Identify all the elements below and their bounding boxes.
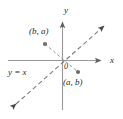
point-label-a-b: (a, b) bbox=[63, 78, 83, 87]
reflection-connector bbox=[45, 44, 78, 72]
point-marker-b-a bbox=[43, 42, 47, 46]
coordinate-plane-figure: y x 0 (b, a) (a, b) y = x bbox=[0, 0, 123, 119]
figure-canvas bbox=[0, 0, 123, 119]
origin-label: 0 bbox=[64, 63, 68, 71]
point-label-b-a: (b, a) bbox=[29, 27, 49, 36]
line-label-y-equals-x: y = x bbox=[8, 68, 27, 77]
y-axis-label: y bbox=[64, 6, 68, 15]
x-axis-label: x bbox=[110, 56, 114, 65]
point-marker-a-b bbox=[76, 70, 80, 74]
line-y-equals-x bbox=[16, 26, 104, 104]
